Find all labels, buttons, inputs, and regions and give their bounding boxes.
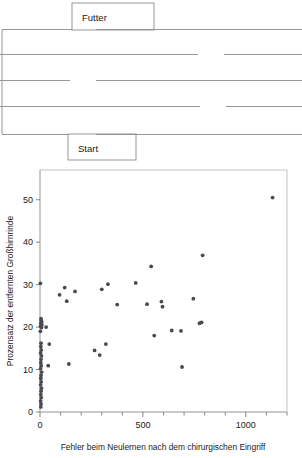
- scatter-point: [160, 300, 164, 304]
- scatter-point: [115, 303, 119, 307]
- scatter-plot: 01020304050 05001000 Prozensatz der entf…: [0, 162, 302, 458]
- scatter-point: [104, 342, 108, 346]
- scatter-point: [149, 264, 153, 268]
- scatter-point: [39, 341, 43, 345]
- scatter-point: [39, 367, 43, 371]
- scatter-point: [47, 342, 51, 346]
- x-axis-title: Fehler beim Neulernen nach dem chirurgis…: [61, 442, 266, 452]
- maze-diagram: Futter Start: [0, 0, 302, 162]
- x-axis-ticks: 05001000: [37, 412, 287, 430]
- x-tick-label: 1000: [236, 420, 256, 430]
- scatter-points-layer: [39, 196, 275, 409]
- y-tick-label: 0: [28, 407, 33, 417]
- scatter-point: [73, 290, 77, 294]
- plot-frame: [40, 170, 287, 412]
- y-axis-title: Prozensatz der entfernten Großhirnrinde: [5, 215, 15, 366]
- scatter-point: [39, 383, 43, 387]
- figure-root: Futter Start: [0, 0, 302, 458]
- scatter-point: [40, 326, 44, 330]
- scatter-point: [201, 253, 205, 257]
- scatter-point: [179, 329, 183, 333]
- scatter-point: [40, 354, 44, 358]
- scatter-point: [100, 287, 104, 291]
- scatter-point: [46, 364, 50, 368]
- scatter-point: [161, 305, 165, 309]
- scatter-point: [180, 365, 184, 369]
- x-tick-label: 500: [135, 420, 150, 430]
- scatter-point: [39, 281, 43, 285]
- scatter-point: [98, 353, 102, 357]
- scatter-point: [39, 357, 43, 361]
- scatter-point: [39, 389, 43, 393]
- y-axis-ticks: 01020304050: [23, 195, 40, 417]
- maze-start-label: Start: [78, 143, 98, 154]
- scatter-point: [40, 370, 44, 374]
- y-tick-label: 50: [23, 195, 33, 205]
- scatter-point: [39, 345, 43, 349]
- scatter-point: [145, 302, 149, 306]
- y-tick-label: 20: [23, 322, 33, 332]
- scatter-point: [63, 286, 67, 290]
- scatter-point: [58, 293, 62, 297]
- scatter-point: [152, 334, 156, 338]
- scatter-point: [67, 362, 71, 366]
- scatter-point: [39, 329, 43, 333]
- scatter-point: [170, 329, 174, 333]
- scatter-point: [134, 281, 138, 285]
- scatter-point: [44, 325, 48, 329]
- x-tick-label: 0: [37, 420, 42, 430]
- maze-food-label: Futter: [82, 12, 107, 23]
- y-tick-label: 10: [23, 365, 33, 375]
- scatter-point: [200, 321, 204, 325]
- scatter-plot-panel: 01020304050 05001000 Prozensatz der entf…: [0, 162, 302, 458]
- scatter-point: [106, 282, 110, 286]
- scatter-point: [39, 405, 43, 409]
- scatter-point: [191, 297, 195, 301]
- y-tick-label: 40: [23, 237, 33, 247]
- maze-diagram-panel: Futter Start: [0, 0, 302, 162]
- scatter-point: [93, 349, 97, 353]
- scatter-point: [39, 377, 43, 381]
- scatter-point: [65, 299, 69, 303]
- y-tick-label: 30: [23, 280, 33, 290]
- scatter-point: [271, 196, 275, 200]
- scatter-point: [39, 396, 43, 400]
